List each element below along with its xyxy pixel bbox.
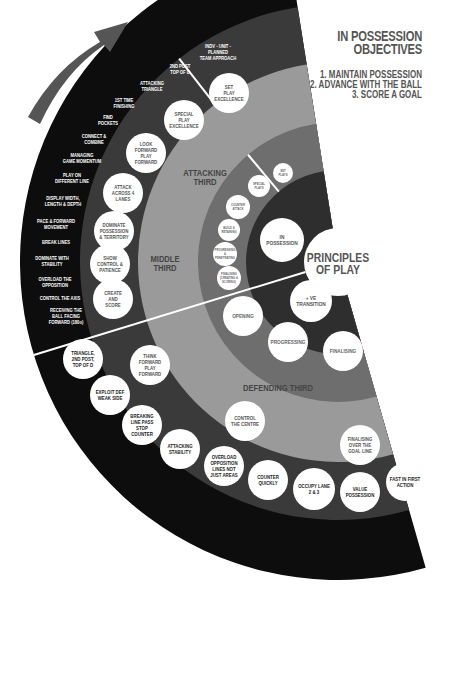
principles-of-play-diagram: PRINCIPLESOF PLAYATTACKINGTHIRDMIDDLETHI… xyxy=(0,0,457,678)
outer-ring-label: DISPLAY WIDTH,LENGTH & DEPTH xyxy=(45,196,82,207)
outer-ring-label-line: PACE & FORWARD xyxy=(37,219,75,225)
outer-ring-item-label: OVERLOADOPPOSITIONLINES NOTJUST AREAS xyxy=(210,453,238,478)
ring4-item-label-line: PLAYS xyxy=(254,186,264,190)
outer-ring-label-line: INDV - UNIT - xyxy=(205,44,231,50)
outer-ring-item: ATTACKINGSTABILITY xyxy=(160,429,200,469)
outer-ring-label-line: ATTACKING xyxy=(140,81,164,87)
ring2-item: CONTROLTHE CENTRE xyxy=(225,401,265,441)
center-title-line: OF PLAY xyxy=(316,261,360,275)
ring4-item-label: BUILD &RETAINING xyxy=(221,226,237,234)
outer-ring-label: BREAK LINES xyxy=(42,239,70,245)
ring4-item: BUILD &RETAINING xyxy=(218,219,240,241)
outer-ring-item: COUNTERQUICKLY xyxy=(248,460,288,500)
ring2-item: SPECIALPLAYEXCELLENCE xyxy=(164,100,204,140)
center-title: PRINCIPLESOF PLAY xyxy=(307,249,370,275)
ring5-item-label-line: TRANSITION xyxy=(296,301,325,308)
ring2-item: ATTACKACROSS 4LANES xyxy=(103,173,143,213)
outer-ring-item-label: TRIANGLE,2ND POST,TOP OF D xyxy=(71,349,95,368)
ring4-item-label: COUNTERATTACK xyxy=(231,203,245,211)
outer-ring-item-label-line: ACTION xyxy=(397,481,414,488)
outer-ring-label-line: FORWARD (180o) xyxy=(49,319,84,325)
outer-ring-item: VALUEPOSSESSION xyxy=(340,472,380,512)
outer-ring-item: EXPLOIT DEFWEAK SIDE xyxy=(90,375,130,415)
ring2-item-label-line: GOAL LINE xyxy=(348,447,372,454)
outer-ring-label-line: CONTROL THE AXIS xyxy=(40,295,81,301)
ring4-item-label-line: RETAINING xyxy=(221,230,237,234)
ring4-item: SPECIALPLAYS xyxy=(248,175,270,197)
outer-ring-item-label: COUNTERQUICKLY xyxy=(257,473,279,486)
outer-ring-item-label: BREAKINGLINE PASSSTOPCOUNTER xyxy=(130,412,154,437)
outer-ring-label: 2ND POSTTOP OF D xyxy=(170,64,191,75)
outer-ring-item-label-line: 2 & 3 xyxy=(309,488,320,495)
zone-middle-third-line: THIRD xyxy=(153,262,176,273)
ring4-item-label-line: OPENING xyxy=(232,313,254,320)
in-possession-objectives: IN POSSESSION OBJECTIVES 1. MAINTAIN POS… xyxy=(282,30,422,100)
outer-ring-label-line: TOP OF D xyxy=(170,69,190,75)
outer-ring-item-label-line: WEAK SIDE xyxy=(98,394,123,401)
outer-ring-item-label-line: POSSESSION xyxy=(346,491,375,498)
outer-ring-label-line: FINISHING xyxy=(114,103,135,109)
outer-ring-label-line: RECEIVING THE xyxy=(50,308,82,314)
outer-ring-label-line: 1ST TIME xyxy=(115,98,134,104)
objectives-title-line2: OBJECTIVES xyxy=(310,43,422,56)
ring2-item-label: CONTROLTHE CENTRE xyxy=(231,414,259,427)
zone-defending-third: DEFENDING THIRD xyxy=(243,382,313,393)
outer-ring-label-line: DISPLAY WIDTH, xyxy=(46,196,79,202)
outer-ring-label-line: GAME MOMENTUM xyxy=(63,158,102,164)
ring2-item-label-line: LANES xyxy=(116,195,131,202)
ring5-item: + VETRANSITION xyxy=(290,280,332,322)
ring4-item-label: OPENING xyxy=(232,313,254,320)
ring2-item-label-line: PATIENCE xyxy=(99,266,121,273)
ring2-item-label-line: FORWARD xyxy=(139,370,162,377)
outer-ring-label: RECEIVING THEBALL FACINGFORWARD (180o) xyxy=(49,308,84,325)
outer-ring-item-label-line: JUST AREAS xyxy=(210,472,238,479)
zone-middle-third: MIDDLETHIRD xyxy=(150,253,179,273)
ring4-item: FINALISING(CREATING &SCORING) xyxy=(217,266,241,290)
outer-ring-label: CONNECT &COMBINE xyxy=(82,134,107,145)
outer-ring-item-label-line: QUICKLY xyxy=(258,479,278,486)
outer-ring-label-line: PLAY ON xyxy=(63,173,81,179)
ring2-item-label-line: EXCELLENCE xyxy=(169,122,199,129)
ring4-item: SETPLAYS xyxy=(273,163,293,183)
outer-ring-label-line: 2ND POST xyxy=(170,64,191,70)
ring2-item-label-line: EXCELLENCE xyxy=(214,95,244,102)
ring4-item-label: FINALISING xyxy=(330,348,357,355)
ring4-item-label-line: FINALISING xyxy=(330,348,357,355)
ring2-item: LOOKFORWARDPLAYFORWARD xyxy=(126,133,166,173)
outer-ring-item: TRIANGLE,2ND POST,TOP OF D xyxy=(63,339,103,379)
outer-ring-item-label-line: COUNTER xyxy=(131,431,153,438)
zone-attacking-third-line: THIRD xyxy=(193,176,216,187)
ring2-item-label-line: FORWARD xyxy=(135,158,158,165)
outer-ring-label-line: BALL FACING xyxy=(52,313,80,319)
ring4-item-label: SPECIALPLAYS xyxy=(253,182,265,190)
ring2-item-label-line: SCORE xyxy=(105,301,121,308)
ring4-item-label-line: PROGRESSING xyxy=(271,339,306,346)
outer-ring-label: 1ST TIMEFINISHING xyxy=(114,98,135,109)
ring4-item-label: FINALISING(CREATING &SCORING) xyxy=(220,272,239,284)
outer-ring-item-label: ATTACKINGSTABILITY xyxy=(167,442,192,455)
zone-defending-third-line: DEFENDING THIRD xyxy=(243,382,313,393)
ring4-item-label-line: PLAYS xyxy=(278,173,288,177)
ring5-item: INPOSSESSION xyxy=(260,218,304,262)
outer-ring-label: OVERLOAD THEOPPOSITION xyxy=(39,277,72,288)
ring4-item: COUNTERATTACK xyxy=(226,195,250,219)
outer-ring-label-line: OPPOSITION xyxy=(42,282,68,288)
ring4-item-label: PROGRESSING xyxy=(271,339,306,346)
outer-ring-label-line: CONNECT & xyxy=(82,134,107,140)
outer-ring-item: FAST IN FIRSTACTION xyxy=(386,463,424,501)
outer-ring-label-line: STABILITY xyxy=(41,261,63,267)
outer-ring-label-line: MOVEMENT xyxy=(44,224,68,230)
outer-ring-label: CONTROL THE AXIS xyxy=(40,295,81,301)
outer-ring-label-line: FIND xyxy=(103,115,113,121)
outer-ring-item-label-line: TOP OF D xyxy=(73,361,94,368)
objectives-list: 1. MAINTAIN POSSESSION 2. ADVANCE WITH T… xyxy=(310,70,422,100)
ring2-item-label: FINALISINGOVER THEGOAL LINE xyxy=(348,435,373,454)
ring2-item-label-line: & TERRITORY xyxy=(99,233,129,240)
ring2-item: SHOWCONTROL &PATIENCE xyxy=(90,244,130,284)
outer-ring-label-line: DIFFERENT LINE xyxy=(55,178,89,184)
outer-ring-label-line: MANAGING xyxy=(70,153,93,159)
ring2-item-label-line: THE CENTRE xyxy=(231,420,259,427)
ring4-item-label-line: SCORING) xyxy=(222,280,236,284)
outer-ring-item-label-line: STABILITY xyxy=(169,448,192,455)
outer-ring-label-line: DOMINATE WITH xyxy=(35,256,69,262)
